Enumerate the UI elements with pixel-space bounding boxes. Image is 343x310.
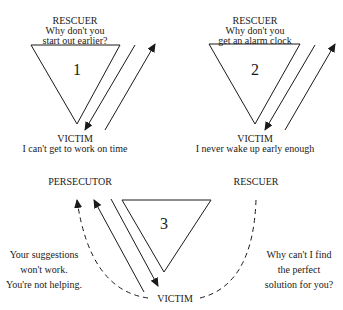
panel-1 [31, 44, 155, 130]
panel-3-right-quote: Why can't I find the perfect solution fo… [254, 247, 343, 292]
triangle-2 [209, 44, 300, 124]
panel-1-top-line2: start out earlier? [25, 35, 125, 47]
panel-2-bottom-line: I never wake up early enough [180, 143, 330, 155]
arrow-down-to-victim-2 [265, 45, 315, 130]
arrow-down-to-victim-3 [111, 199, 158, 286]
panel-3-left-quote: Your suggestions won't work. You're not … [0, 247, 88, 292]
panel-1-number: 1 [73, 62, 81, 78]
triangle-1 [31, 45, 120, 124]
left-quote-line-2: won't work. [0, 262, 88, 277]
arrow-up-to-rescuer-1 [105, 44, 155, 130]
right-quote-line-2: the perfect [254, 262, 343, 277]
panel-3-left-role: PERSECUTOR [40, 176, 120, 188]
panel-3 [77, 199, 256, 298]
panel-1-bottom-line: I can't get to work on time [10, 143, 140, 155]
arrow-down-to-victim-1 [85, 45, 135, 130]
panel-2-number: 2 [251, 62, 259, 78]
panel-2-top-line2: get an alarm clock [205, 35, 305, 47]
left-quote-line-3: You're not helping. [0, 277, 88, 292]
panel-3-bottom-role: VICTIM [150, 293, 200, 305]
right-quote-line-3: solution for you? [254, 277, 343, 292]
panel-3-right-role: RESCUER [216, 176, 296, 188]
triangle-3 [122, 200, 211, 272]
panel-2 [209, 44, 335, 130]
left-quote-line-1: Your suggestions [0, 247, 88, 262]
dashed-arc-victim-to-rescuer [200, 200, 256, 298]
right-quote-line-1: Why can't I find [254, 247, 343, 262]
panel-3-number: 3 [160, 216, 168, 232]
